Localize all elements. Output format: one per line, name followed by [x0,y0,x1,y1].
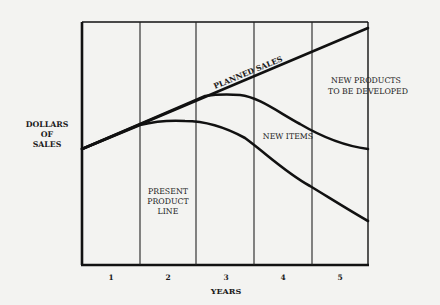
tick-year-1: 1 [108,273,113,282]
plot-frame [81,22,369,265]
tick-year-5: 5 [337,273,342,282]
planned-sales-annotation: PLANNED SALES [212,54,284,91]
y-axis-label: DOLLARS OF SALES [26,120,69,149]
present-line-2: PRODUCT [147,197,189,206]
present-line-3: LINE [158,207,179,216]
new-products-line-2: TO BE DEVELOPED [328,87,408,96]
present-line-1: PRESENT [148,187,189,196]
y-label-line-3: SALES [33,140,62,149]
tick-year-2: 2 [165,273,170,282]
y-label-line-1: DOLLARS [26,120,69,129]
new-products-line-1: NEW PRODUCTS [331,76,401,85]
present-product-line-annotation: PRESENT PRODUCT LINE [147,187,189,216]
series [82,28,368,221]
sales-planning-chart: DOLLARS OF SALES 1 2 3 4 5 YEARS PLANNED… [0,0,440,305]
x-axis-title: YEARS [210,286,242,296]
new-items-upper-curve [82,95,368,149]
y-label-line-2: OF [41,130,54,139]
year-dividers [140,22,312,265]
new-items-annotation: NEW ITEMS [263,132,313,141]
tick-year-4: 4 [280,273,285,282]
tick-year-3: 3 [223,273,228,282]
x-tick-labels: 1 2 3 4 5 [108,273,342,282]
